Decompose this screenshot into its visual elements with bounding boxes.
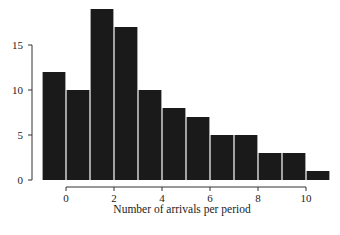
histogram-chart: 051015 0246810 Number of arrivals per pe…	[0, 0, 340, 235]
histogram-bar	[67, 90, 90, 180]
histogram-bar	[139, 90, 162, 180]
x-axis-title: Number of arrivals per period	[113, 203, 251, 216]
histogram-bar	[163, 108, 186, 180]
histogram-bar	[259, 153, 282, 180]
y-tick-label: 15	[12, 39, 24, 51]
y-tick-label: 0	[18, 174, 24, 186]
bars-group	[43, 9, 330, 180]
histogram-bar	[211, 135, 234, 180]
y-tick-label: 5	[18, 129, 24, 141]
histogram-bar	[115, 27, 138, 180]
x-tick-label: 0	[63, 192, 69, 204]
histogram-bar	[187, 117, 210, 180]
histogram-bar	[43, 72, 66, 180]
x-tick-label: 10	[301, 192, 313, 204]
histogram-bar	[283, 153, 306, 180]
x-tick-label: 8	[255, 192, 261, 204]
histogram-bar	[235, 135, 258, 180]
x-axis: 0246810	[63, 187, 312, 204]
histogram-bar	[91, 9, 114, 180]
y-tick-label: 10	[12, 84, 24, 96]
y-axis: 051015	[12, 39, 32, 186]
histogram-bar	[307, 171, 330, 180]
